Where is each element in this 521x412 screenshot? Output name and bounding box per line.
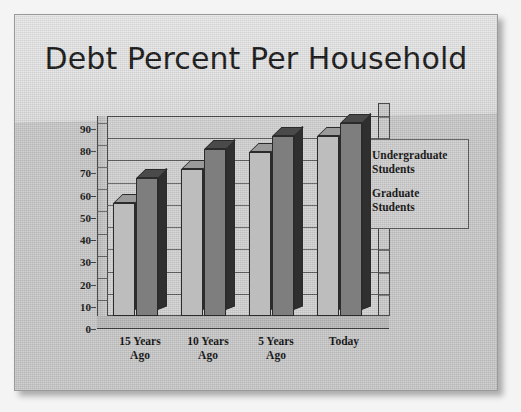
- y-axis-tick-label: 60: [65, 190, 91, 202]
- y-axis-tick-mark: [91, 262, 96, 263]
- bar-face: [340, 123, 362, 316]
- side-wall-tick: [97, 211, 108, 212]
- x-axis-label-line1: 10 Years: [169, 334, 247, 348]
- side-wall-tick: [97, 278, 108, 279]
- right-depth-tick: [379, 117, 390, 118]
- x-axis-label: 15 YearsAgo: [101, 334, 179, 362]
- bar-face: [136, 178, 158, 316]
- x-axis-label-line2: Ago: [237, 348, 315, 362]
- right-depth-tick: [379, 273, 390, 274]
- bar-1-0: [136, 178, 158, 316]
- y-axis: 9080706050403020100: [61, 116, 91, 329]
- legend-label-line1: Undergraduate: [372, 149, 447, 161]
- y-axis-tick-mark: [91, 307, 96, 308]
- plot-area: [97, 116, 389, 329]
- side-wall-tick: [97, 123, 108, 124]
- legend-item-label: Graduate Students: [372, 187, 419, 214]
- side-wall-tick: [97, 234, 108, 235]
- y-axis-tick-mark: [91, 240, 96, 241]
- bar-side: [362, 113, 371, 310]
- x-axis-label-line2: Ago: [101, 348, 179, 362]
- y-axis-tick-mark: [91, 329, 96, 330]
- bar-face: [317, 136, 339, 316]
- presentation-slide: Debt Percent Per Household 9080706050403…: [14, 14, 498, 391]
- y-axis-tick-mark: [91, 218, 96, 219]
- side-wall-tick: [97, 167, 108, 168]
- right-depth-tick: [379, 295, 390, 296]
- bar-1-3: [340, 123, 362, 316]
- legend-item: Undergraduate Students: [358, 149, 462, 176]
- legend-label-line1: Graduate: [372, 187, 419, 199]
- y-axis-tick-label: 30: [65, 256, 91, 268]
- y-axis-tick-mark: [91, 151, 96, 152]
- bar-face: [204, 149, 226, 316]
- x-axis-label-line1: 15 Years: [101, 334, 179, 348]
- y-axis-tick-mark: [91, 196, 96, 197]
- legend-item: Graduate Students: [358, 187, 462, 214]
- bar-0-0: [113, 203, 135, 316]
- bar-1-2: [272, 136, 294, 316]
- y-axis-tick-mark: [91, 285, 96, 286]
- bar-side: [294, 126, 303, 310]
- page-title: Debt Percent Per Household: [15, 41, 497, 76]
- right-depth-tick: [379, 250, 390, 251]
- side-wall-tick: [97, 189, 108, 190]
- legend-label-line2: Students: [372, 201, 415, 213]
- y-axis-tick-label: 40: [65, 234, 91, 246]
- y-axis-tick-label: 10: [65, 301, 91, 313]
- slide-canvas: Debt Percent Per Household 9080706050403…: [0, 0, 521, 412]
- x-axis-label: 5 YearsAgo: [237, 334, 315, 362]
- y-axis-tick-label: 70: [65, 167, 91, 179]
- bar-side: [158, 168, 167, 309]
- side-wall-tick: [97, 300, 108, 301]
- x-axis-label-line2: Ago: [169, 348, 247, 362]
- legend-label-line2: Students: [372, 163, 415, 175]
- y-axis-tick-label: 80: [65, 145, 91, 157]
- x-axis-label-line1: Today: [305, 334, 383, 348]
- bar-face: [181, 169, 203, 316]
- y-axis-tick-mark: [91, 129, 96, 130]
- bar-face: [272, 136, 294, 316]
- x-axis-label: Today: [305, 334, 383, 348]
- x-axis-label-line1: 5 Years: [237, 334, 315, 348]
- y-axis-tick-mark: [91, 173, 96, 174]
- x-axis-label: 10 YearsAgo: [169, 334, 247, 362]
- bar-0-3: [317, 136, 339, 316]
- bar-0-1: [181, 169, 203, 316]
- bar-side: [226, 140, 235, 310]
- bar-1-1: [204, 149, 226, 316]
- y-axis-tick-label: 90: [65, 123, 91, 135]
- plot-floor: [97, 316, 389, 329]
- legend-item-label: Undergraduate Students: [372, 149, 447, 176]
- y-axis-tick-label: 20: [65, 279, 91, 291]
- y-axis-tick-label: 0: [65, 323, 91, 335]
- y-axis-tick-label: 50: [65, 212, 91, 224]
- bar-0-2: [249, 152, 271, 316]
- bar-face: [249, 152, 271, 316]
- side-wall-tick: [97, 145, 108, 146]
- side-wall-tick: [97, 256, 108, 257]
- bar-face: [113, 203, 135, 316]
